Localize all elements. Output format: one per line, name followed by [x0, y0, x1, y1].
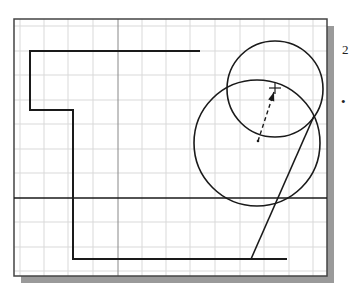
viewport-background	[14, 19, 327, 276]
center-point-dot	[257, 140, 260, 143]
sketch-canvas[interactable]	[0, 0, 355, 296]
side-label-bullet-icon: •	[341, 95, 346, 108]
side-label-top: 2	[342, 43, 349, 56]
sketch-viewport[interactable]	[0, 0, 355, 296]
